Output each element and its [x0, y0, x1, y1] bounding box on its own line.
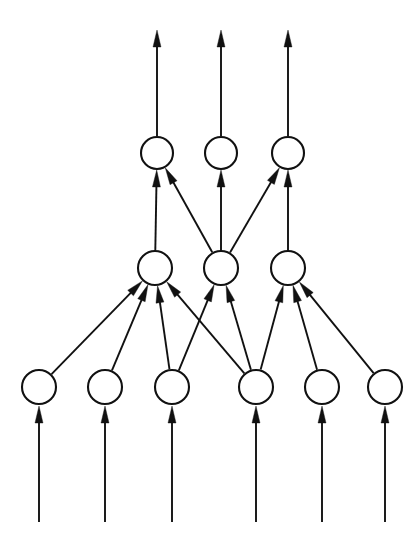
edge-b4-to-m3 [261, 285, 284, 369]
arrowhead-icon [168, 406, 176, 423]
arrowhead-icon [293, 285, 302, 302]
edge-shaft [179, 296, 210, 370]
input-arrow-in5 [318, 406, 326, 522]
edge-shaft [52, 290, 134, 374]
arrowhead-icon [153, 30, 161, 47]
node-m2[interactable] [204, 251, 238, 285]
arrowhead-icon [165, 168, 177, 185]
input-arrow-in6 [381, 406, 389, 522]
edge-b3-to-m2 [179, 285, 214, 371]
arrowhead-icon [284, 30, 292, 47]
edge-b2-to-m1 [112, 285, 148, 371]
edge-shaft [296, 297, 317, 370]
arrowhead-icon [381, 406, 389, 423]
layer-bottom-layer [22, 370, 402, 404]
edge-m2-to-t2 [217, 170, 225, 250]
edge-shaft [155, 182, 156, 250]
arrowhead-icon [217, 30, 225, 47]
edge-shaft [307, 291, 374, 373]
arrowhead-icon [284, 170, 292, 187]
node-m1[interactable] [138, 251, 172, 285]
edge-shaft [261, 297, 280, 369]
arrowhead-icon [152, 170, 160, 187]
node-b6[interactable] [368, 370, 402, 404]
arrowhead-icon [226, 285, 235, 302]
arrowhead-icon [252, 406, 260, 423]
edge-b4-to-m1 [167, 282, 245, 374]
edge-b3-to-m1 [156, 286, 169, 369]
arrowhead-icon [217, 170, 225, 187]
input-arrow-in2 [101, 406, 109, 522]
input-arrow-group [35, 406, 389, 522]
node-t2[interactable] [205, 137, 237, 169]
input-arrow-in3 [168, 406, 176, 522]
input-arrow-in1 [35, 406, 43, 522]
node-b3[interactable] [155, 370, 189, 404]
edge-b1-to-m1 [52, 281, 143, 374]
edge-shaft [230, 178, 273, 252]
edge-m1-to-t1 [152, 170, 160, 250]
node-t3[interactable] [272, 137, 304, 169]
arrowhead-icon [101, 406, 109, 423]
edge-m3-to-t3 [284, 170, 292, 250]
output-arrow-group [153, 30, 292, 136]
network-diagram-svg [0, 0, 420, 542]
output-arrow-out1 [153, 30, 161, 136]
layer-middle-layer [138, 251, 305, 285]
arrowhead-icon [156, 286, 164, 303]
edge-shaft [171, 179, 212, 253]
diagram-canvas [0, 0, 420, 542]
node-m3[interactable] [271, 251, 305, 285]
edge-m2-to-t3 [230, 168, 279, 253]
node-b1[interactable] [22, 370, 56, 404]
output-arrow-out3 [284, 30, 292, 136]
edge-b6-to-m3 [299, 282, 373, 373]
input-arrow-in4 [252, 406, 260, 522]
arrowhead-icon [267, 168, 279, 185]
edge-m2-to-t1 [165, 168, 212, 252]
node-b4[interactable] [239, 370, 273, 404]
arrowhead-icon [318, 406, 326, 423]
node-group [22, 137, 402, 404]
output-arrow-out2 [217, 30, 225, 136]
node-b2[interactable] [88, 370, 122, 404]
arrowhead-icon [204, 285, 214, 302]
node-t1[interactable] [141, 137, 173, 169]
layer-top-layer [141, 137, 304, 169]
edge-shaft [175, 291, 245, 373]
arrowhead-icon [35, 406, 43, 423]
edge-shaft [159, 298, 169, 369]
arrowhead-icon [275, 285, 283, 302]
arrowhead-icon [138, 285, 148, 302]
node-b5[interactable] [305, 370, 339, 404]
